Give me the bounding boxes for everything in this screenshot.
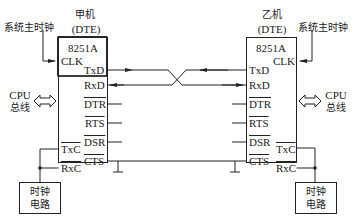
right-pin-rxc: RxC xyxy=(276,162,296,174)
left-pin-txd: TxD xyxy=(84,64,104,76)
left-clock-circuit-line2: 电路 xyxy=(20,199,60,211)
right-chip-name: 8251A xyxy=(246,42,296,54)
left-cpu-label: CPU xyxy=(6,89,34,101)
right-pin-dsr: DSR xyxy=(249,136,270,148)
left-clock-circuit-line1: 时钟 xyxy=(20,186,60,198)
left-machine-title: 甲机 xyxy=(70,9,100,21)
left-system-clock-label: 系统主时钟 xyxy=(4,22,54,34)
right-pin-rxd: RxD xyxy=(249,79,270,91)
right-clock-circuit-line1: 时钟 xyxy=(296,186,336,198)
left-pin-txc: TxC xyxy=(61,143,81,155)
cpu-bus-arrows xyxy=(34,95,321,107)
left-pin-rxc: RxC xyxy=(61,162,81,174)
left-machine-subtitle: (DTE) xyxy=(66,23,106,35)
right-junction-dot xyxy=(313,166,317,170)
right-machine-subtitle: (DTE) xyxy=(252,23,292,35)
right-pin-clk: CLK xyxy=(273,55,295,67)
right-pin-dtr: DTR xyxy=(249,98,271,110)
right-pin-rts: RTS xyxy=(249,117,269,129)
left-pin-cts: CTS xyxy=(84,155,104,167)
right-pin-txc: TxC xyxy=(276,143,296,155)
right-pin-txd: TxD xyxy=(249,64,269,76)
left-chip-name: 8251A xyxy=(58,42,108,54)
left-junction-dot xyxy=(38,166,42,170)
right-machine-title: 乙机 xyxy=(257,9,287,21)
left-pin-rxd: RxD xyxy=(84,79,105,91)
right-system-clock-label: 系统主时钟 xyxy=(298,22,348,34)
left-pin-dtr: DTR xyxy=(84,98,106,110)
left-pin-rts: RTS xyxy=(85,117,105,129)
left-bus-label: 总线 xyxy=(6,102,34,114)
right-cpu-label: CPU xyxy=(322,89,350,101)
right-pin-cts: CTS xyxy=(249,155,269,167)
left-pin-clk: CLK xyxy=(61,55,83,67)
left-pin-dsr: DSR xyxy=(84,136,105,148)
right-bus-label: 总线 xyxy=(322,102,350,114)
right-clock-circuit-line2: 电路 xyxy=(296,199,336,211)
